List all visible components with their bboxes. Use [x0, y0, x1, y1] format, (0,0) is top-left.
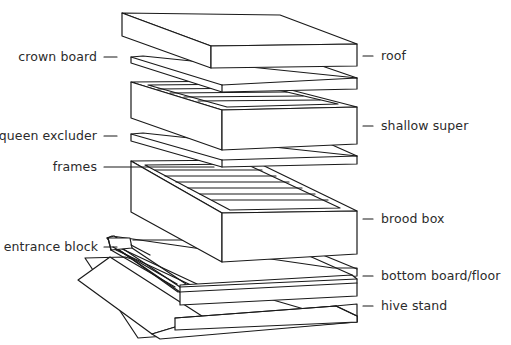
beehive-diagram: crown board queen excluder frames entran… — [0, 0, 511, 345]
label-brood-box: brood box — [381, 212, 445, 226]
label-roof: roof — [381, 49, 406, 63]
label-queen-excluder: queen excluder — [0, 129, 97, 143]
label-crown-board: crown board — [18, 50, 97, 64]
label-hive-stand: hive stand — [381, 299, 447, 313]
label-entrance-block: entrance block — [4, 240, 98, 254]
label-bottom-board: bottom board/floor — [381, 269, 501, 283]
label-shallow-super: shallow super — [381, 119, 468, 133]
label-frames: frames — [53, 160, 97, 174]
